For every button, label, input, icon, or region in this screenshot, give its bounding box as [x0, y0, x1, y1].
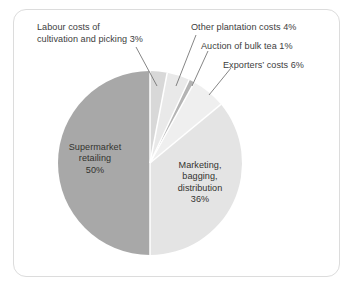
leader-line-exporters-costs: [209, 68, 231, 95]
callout-exporters-costs: Exporters’ costs 6%: [223, 60, 304, 72]
callout-labour-costs: Labour costs of cultivation and picking …: [37, 22, 143, 45]
callout-exporters-costs-line1: Exporters’ costs 6%: [223, 60, 304, 72]
slice-label-marketing-line1: Marketing,: [157, 160, 243, 171]
slice-label-supermarket-retailing-line1: Supermarket: [47, 142, 143, 153]
slice-label-supermarket-retailing: Supermarket retailing 50%: [47, 142, 143, 176]
callout-other-plantation-costs-line1: Other plantation costs 4%: [191, 22, 296, 34]
slice-label-marketing-line3: distribution: [157, 183, 243, 194]
callout-other-plantation-costs: Other plantation costs 4%: [191, 22, 296, 34]
slice-label-supermarket-retailing-line3: 50%: [47, 165, 143, 176]
callout-labour-costs-line1: Labour costs of: [37, 22, 143, 34]
leader-line-auction-of-bulk-tea: [192, 51, 208, 86]
slice-label-marketing-bagging-distribution: Marketing, bagging, distribution 36%: [157, 160, 243, 206]
slice-label-marketing-line4: 36%: [157, 194, 243, 205]
callout-auction-of-bulk-tea-line1: Auction of bulk tea 1%: [201, 41, 293, 53]
callout-labour-costs-line2: cultivation and picking 3%: [37, 34, 143, 46]
slice-label-marketing-line2: bagging,: [157, 171, 243, 182]
pie-chart-figure: Labour costs of cultivation and picking …: [0, 0, 354, 289]
callout-auction-of-bulk-tea: Auction of bulk tea 1%: [201, 41, 293, 53]
slice-label-supermarket-retailing-line2: retailing: [47, 153, 143, 164]
